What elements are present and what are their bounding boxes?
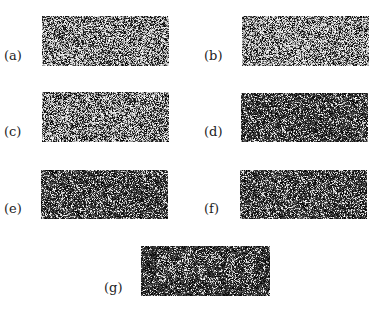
noise-image-f bbox=[240, 170, 367, 219]
panel-label-d: (d) bbox=[204, 124, 222, 139]
panel-label-e: (e) bbox=[4, 201, 22, 216]
noise-image-a bbox=[42, 16, 169, 66]
panel-label-b: (b) bbox=[204, 48, 222, 63]
panel-label-a: (a) bbox=[4, 48, 22, 63]
panel-label-f: (f) bbox=[204, 201, 219, 216]
noise-image-g bbox=[141, 246, 270, 296]
panel-label-g: (g) bbox=[104, 280, 122, 295]
noise-image-c bbox=[42, 92, 169, 142]
noise-image-b bbox=[242, 16, 369, 66]
noise-image-e bbox=[41, 170, 168, 219]
panel-label-c: (c) bbox=[4, 124, 21, 139]
noise-image-d bbox=[241, 93, 368, 142]
